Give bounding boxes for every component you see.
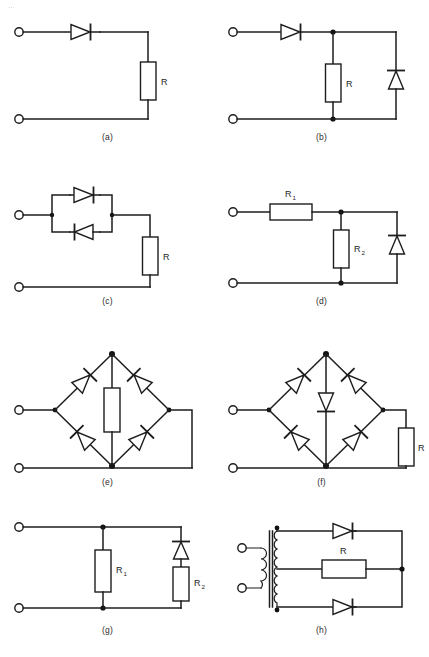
circuit-panel-b: R (b) — [214, 14, 429, 129]
load-resistor-body — [143, 237, 159, 275]
load-resistor-body — [322, 560, 366, 578]
circuit-svg-f: R — [214, 340, 429, 480]
circuit-svg-b: R — [214, 14, 429, 129]
wire-lower-branch-left — [52, 215, 70, 232]
shunt-diode — [387, 71, 405, 90]
input-bottom-terminal[interactable] — [15, 115, 23, 123]
circuit-panel-d: R 1 R 2 (d) — [214, 175, 429, 290]
wire-to-resistor — [112, 215, 150, 237]
panel-caption-d: (d) — [214, 296, 429, 306]
series-resistor-label-sub: 1 — [293, 194, 297, 201]
series-resistor-body — [270, 204, 312, 220]
primary-top-terminal[interactable] — [238, 544, 246, 552]
figure-sheet: ... R (a) — [0, 0, 429, 657]
shunt-resistor-1-label: R — [116, 565, 123, 575]
branch-resistor-2-body — [173, 567, 189, 601]
input-bottom-terminal[interactable] — [15, 283, 23, 291]
diode-triangle — [174, 542, 189, 559]
input-top-terminal[interactable] — [15, 211, 23, 219]
branch-diode — [172, 542, 190, 560]
circuit-panel-h: R (h) — [214, 515, 429, 625]
bridge-center-diode — [317, 393, 335, 412]
shunt-resistor-1-body — [95, 550, 111, 592]
input-bottom-terminal[interactable] — [229, 464, 237, 472]
panel-caption-f: (f) — [214, 477, 429, 487]
wire-output-right — [169, 410, 192, 468]
panel-caption-c: (c) — [0, 296, 215, 306]
branch-resistor-2-label-sub: 2 — [202, 583, 206, 590]
input-bottom-terminal[interactable] — [15, 464, 23, 472]
circuit-panel-c: R (c) — [0, 175, 215, 290]
circuit-svg-h: R — [214, 515, 429, 625]
input-top-terminal[interactable] — [15, 406, 23, 414]
circuit-panel-e: (e) — [0, 340, 215, 480]
load-resistor-label: R — [340, 546, 347, 556]
branch-resistor-2-label: R — [194, 578, 201, 588]
diode-triangle — [333, 600, 352, 615]
panel-caption-h: (h) — [214, 625, 429, 635]
shunt-resistor-body — [326, 64, 342, 102]
load-resistor-body — [141, 62, 157, 100]
diode-triangle — [390, 236, 405, 254]
transformer-primary-winding — [261, 548, 267, 588]
output-junction-node — [399, 566, 404, 571]
wire-upper-branch-right — [100, 195, 112, 215]
secondary-top-dot — [275, 526, 280, 531]
antiparallel-diode-upper — [70, 187, 100, 204]
series-resistor-label: R — [285, 189, 292, 199]
shunt-resistor-body — [334, 230, 350, 268]
input-bottom-terminal[interactable] — [229, 279, 237, 287]
load-resistor-label: R — [161, 77, 168, 87]
wire-upper-branch-left — [52, 195, 70, 215]
input-bottom-terminal[interactable] — [15, 604, 23, 612]
diode-triangle — [281, 25, 300, 40]
circuit-svg-a: R — [0, 14, 215, 129]
bottom-rectifier-diode — [333, 599, 353, 616]
shunt-resistor-label: R — [354, 244, 361, 254]
input-top-terminal[interactable] — [229, 406, 237, 414]
circuit-svg-e — [0, 340, 215, 480]
circuit-panel-f: R (f) — [214, 340, 429, 480]
input-top-terminal[interactable] — [15, 523, 23, 531]
panel-caption-g: (g) — [0, 625, 215, 635]
input-top-terminal[interactable] — [15, 28, 23, 36]
load-resistor-label: R — [418, 443, 425, 453]
load-resistor-body — [399, 428, 415, 466]
diode-triangle — [75, 225, 94, 240]
circuit-svg-g: R 1 R 2 — [0, 515, 215, 625]
series-diode — [281, 24, 301, 41]
input-top-terminal[interactable] — [229, 28, 237, 36]
panel-caption-a: (a) — [0, 132, 215, 142]
circuit-svg-c: R — [0, 175, 215, 290]
antiparallel-diode-lower — [70, 224, 100, 241]
wire-lower-branch-right — [100, 215, 112, 232]
circuit-panel-g: R 1 R 2 (g) — [0, 515, 215, 625]
wire-output-right — [383, 410, 406, 428]
shunt-resistor-1-label-sub: 1 — [124, 570, 128, 577]
load-resistor-label: R — [163, 252, 170, 262]
diode-triangle — [74, 188, 93, 203]
primary-bottom-terminal[interactable] — [238, 584, 246, 592]
input-bottom-terminal[interactable] — [229, 115, 237, 123]
panel-caption-e: (e) — [0, 477, 215, 487]
diode-triangle — [319, 393, 334, 411]
circuit-panel-a: R (a) — [0, 14, 215, 129]
shunt-resistor-label: R — [346, 79, 353, 89]
bridge-center-resistor-body — [104, 388, 120, 432]
header-fragment-text: ... — [8, 1, 60, 10]
circuit-svg-d: R 1 R 2 — [214, 175, 429, 290]
series-diode — [71, 24, 100, 41]
top-rectifier-diode — [333, 523, 353, 540]
diode-triangle — [389, 71, 404, 89]
secondary-bottom-dot — [275, 608, 280, 613]
shunt-diode — [388, 236, 406, 255]
shunt-resistor-label-sub: 2 — [362, 249, 366, 256]
input-top-terminal[interactable] — [229, 208, 237, 216]
panel-caption-b: (b) — [214, 132, 429, 142]
diode-triangle — [333, 524, 352, 539]
primary-coil — [261, 548, 267, 588]
diode-triangle — [71, 25, 90, 40]
